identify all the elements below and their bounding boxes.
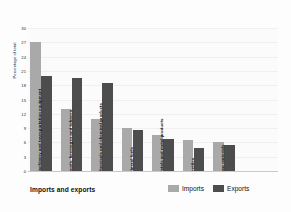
bar-exports (163, 139, 174, 171)
y-axis-tick-label: 12 (14, 111, 26, 116)
y-axis-tick-label: 15 (14, 97, 26, 102)
category-label: Machinery and transportation equipment (37, 89, 42, 171)
bar-exports (133, 130, 144, 171)
y-axis-tick-label: 0 (14, 169, 26, 174)
y-axis-tick-label: 18 (14, 83, 26, 88)
x-axis-title: Imports and exports (30, 186, 95, 193)
y-axis-tick-label: 27 (14, 40, 26, 45)
y-axis-tick-labels: 036912151821242730 (14, 28, 26, 171)
category-label: Textiles (190, 158, 195, 171)
legend-item: Imports (168, 185, 204, 192)
category-label: Metals and metal products (159, 119, 164, 171)
bar-group (30, 28, 61, 171)
plot-area: Machinery and transportation equipmentFo… (28, 28, 278, 171)
bar-group (213, 28, 244, 171)
y-axis-tick-label: 24 (14, 54, 26, 59)
bars-layer (28, 28, 278, 171)
bar-group (122, 28, 153, 171)
bar-group (91, 28, 122, 171)
category-label: Foods, beverages and tobacco (68, 110, 73, 171)
bar-exports (41, 76, 52, 171)
legend-swatch (168, 185, 179, 192)
bar-chart-figure: Percentage of total 036912151821242730 M… (0, 0, 291, 212)
bar-exports (224, 145, 235, 171)
bar-exports (102, 83, 113, 171)
bar-exports (194, 148, 205, 171)
legend-label: Imports (182, 185, 204, 192)
x-axis-line (28, 171, 278, 172)
y-axis-tick-label: 30 (14, 26, 26, 31)
bar-group (152, 28, 183, 171)
category-label: Raw materials (220, 144, 225, 171)
y-axis-tick-label: 6 (14, 140, 26, 145)
category-label: Mineral fuels (129, 147, 134, 171)
y-axis-tick-label: 3 (14, 154, 26, 159)
bar-group (61, 28, 92, 171)
bar-exports (72, 78, 83, 171)
chart-legend: ImportsExports (168, 185, 249, 192)
category-label: Chemicals and chemical products (98, 103, 103, 171)
y-axis-tick-label: 21 (14, 68, 26, 73)
bar-group (183, 28, 214, 171)
legend-swatch (213, 185, 224, 192)
legend-label: Exports (227, 185, 249, 192)
legend-item: Exports (213, 185, 249, 192)
y-axis-tick-label: 9 (14, 126, 26, 131)
